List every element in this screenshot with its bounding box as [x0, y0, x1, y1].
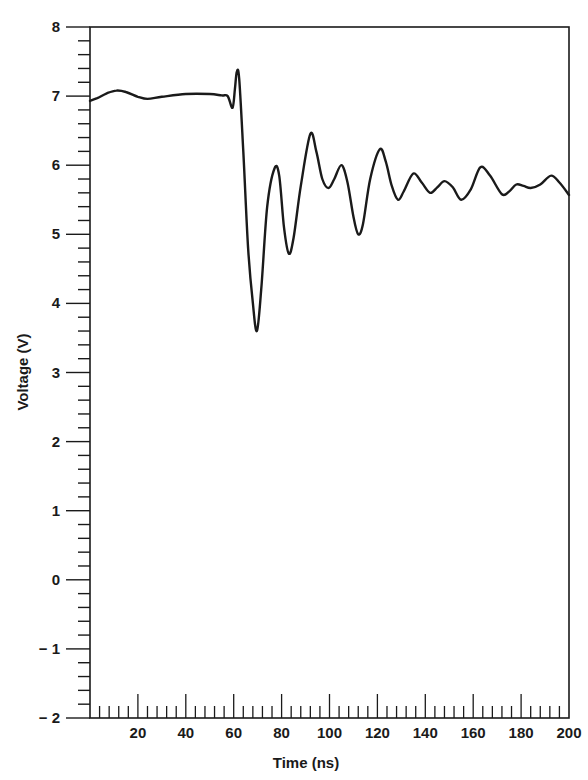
x-tick-label: 20: [130, 724, 147, 741]
y-axis: − 2− 1012345678: [39, 18, 90, 726]
y-tick-label: 8: [52, 18, 60, 35]
plot-border: [90, 27, 569, 718]
y-tick-label: − 2: [39, 709, 60, 726]
y-tick-label: 7: [52, 87, 60, 104]
y-tick-label: 0: [52, 571, 60, 588]
x-tick-label: 40: [177, 724, 194, 741]
chart: − 2− 1012345678 204060801001201401601802…: [0, 0, 588, 780]
y-tick-label: 2: [52, 433, 60, 450]
y-tick-label: 3: [52, 364, 60, 381]
x-tick-label: 120: [365, 724, 390, 741]
x-tick-label: 100: [317, 724, 342, 741]
x-tick-label: 80: [273, 724, 290, 741]
y-tick-label: 5: [52, 225, 60, 242]
y-tick-label: 4: [52, 294, 61, 311]
data-series: [90, 70, 569, 331]
y-axis-title: Voltage (V): [14, 333, 31, 410]
x-tick-label: 140: [413, 724, 438, 741]
voltage-line: [90, 70, 569, 331]
x-axis-title: Time (ns): [273, 754, 339, 771]
x-tick-label: 200: [556, 724, 581, 741]
x-tick-label: 60: [225, 724, 242, 741]
y-tick-label: − 1: [39, 640, 60, 657]
x-tick-label: 160: [461, 724, 486, 741]
x-tick-label: 180: [509, 724, 534, 741]
y-tick-label: 1: [52, 502, 60, 519]
y-tick-label: 6: [52, 156, 60, 173]
plot-frame: [90, 27, 569, 718]
